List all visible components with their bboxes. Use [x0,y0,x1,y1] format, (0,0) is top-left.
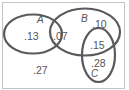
region-b-and-c-value: .15 [90,39,105,51]
region-a-only-value: .13 [24,30,39,42]
region-b-only-value: .10 [92,18,107,30]
set-b-label: B [81,13,88,24]
set-c-label: C [91,68,99,79]
set-a-label: A [36,14,44,25]
region-outside-value: .27 [33,64,48,76]
region-c-only-value: .28 [91,57,106,69]
region-a-and-b-value: .07 [53,30,68,42]
venn-diagram: A B C .13 .07 .10 .15 .28 .27 [0,0,129,90]
